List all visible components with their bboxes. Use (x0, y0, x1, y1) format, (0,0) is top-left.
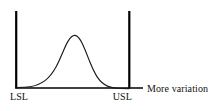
bell-curve (17, 35, 129, 88)
process-capability-figure: LSL USL More variation (0, 0, 218, 111)
lsl-label: LSL (10, 91, 28, 102)
more-variation-annotation: More variation (147, 83, 208, 94)
usl-label: USL (109, 91, 132, 102)
